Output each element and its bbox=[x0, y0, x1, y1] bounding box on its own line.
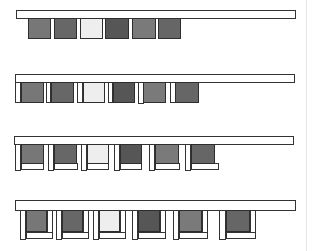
left-post bbox=[219, 210, 226, 240]
right-post bbox=[160, 210, 166, 233]
base-plate bbox=[62, 232, 89, 239]
right-edge-rule bbox=[306, 0, 307, 251]
shaded-block bbox=[26, 210, 47, 232]
right-post bbox=[47, 210, 53, 233]
shaded-block bbox=[226, 210, 250, 232]
right-post bbox=[202, 210, 208, 233]
shaded-block bbox=[105, 18, 129, 39]
shaded-block bbox=[62, 210, 83, 232]
shaded-block bbox=[54, 18, 77, 39]
base-plate bbox=[26, 232, 53, 239]
base-plate bbox=[226, 232, 256, 239]
shaded-block bbox=[175, 82, 199, 103]
shaded-block bbox=[21, 82, 44, 103]
shaded-block bbox=[80, 18, 103, 39]
shaded-block bbox=[21, 144, 44, 164]
shaded-block bbox=[54, 144, 77, 164]
shaded-block bbox=[87, 144, 109, 164]
shaded-block bbox=[113, 82, 135, 103]
shaded-block bbox=[179, 210, 202, 232]
shaded-block bbox=[143, 82, 166, 103]
base-plate bbox=[155, 163, 180, 170]
shaded-block bbox=[28, 18, 51, 39]
shaded-block bbox=[120, 144, 142, 164]
shaded-block bbox=[51, 82, 74, 103]
base-plate bbox=[120, 163, 142, 170]
base-plate bbox=[21, 163, 44, 170]
shaded-block bbox=[155, 144, 179, 164]
base-plate bbox=[179, 232, 208, 239]
right-post bbox=[250, 210, 256, 233]
shaded-block bbox=[191, 144, 215, 164]
right-post bbox=[83, 210, 89, 233]
shaded-block bbox=[99, 210, 120, 232]
base-plate bbox=[191, 163, 219, 170]
base-plate bbox=[138, 232, 166, 239]
base-plate bbox=[87, 163, 109, 170]
base-plate bbox=[54, 163, 78, 170]
right-post bbox=[120, 210, 126, 233]
shaded-block bbox=[132, 18, 156, 39]
shaded-block bbox=[138, 210, 160, 232]
shaded-block bbox=[158, 18, 181, 39]
base-plate bbox=[99, 232, 126, 239]
shaded-block bbox=[83, 82, 105, 103]
